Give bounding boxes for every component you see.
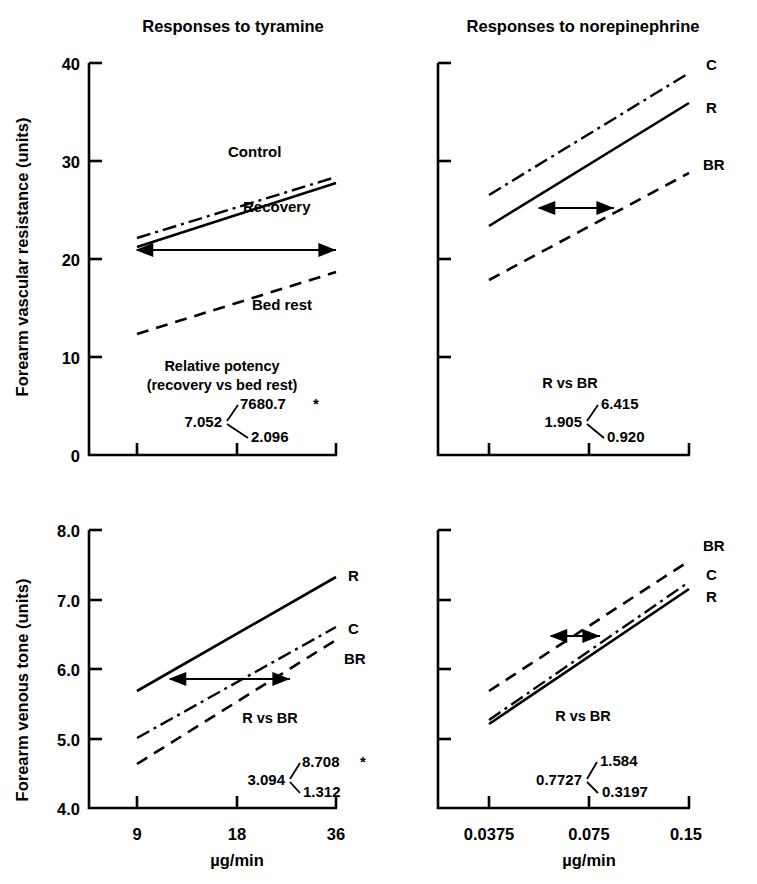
panel-bottom-right: 0.0375 0.075 0.15 µg/min BR C R R vs BR … <box>438 530 725 869</box>
potency-upper-bottom-right: 1.584 <box>600 752 638 769</box>
series-label-r-bottom-left: R <box>348 567 359 584</box>
potency-upper-top-left: 7680.7 <box>240 395 286 412</box>
y-ticks-top-right <box>438 63 451 357</box>
potency-lower-top-right: 0.920 <box>607 428 645 445</box>
x-ticks-top-left <box>137 443 336 455</box>
potency-lower-bottom-right: 0.3197 <box>602 783 648 800</box>
panel-top-right: C R BR R vs BR 1.905 6.415 0.920 <box>438 56 725 455</box>
x-ticklabel-00375-bottom-right: 0.0375 <box>464 825 514 843</box>
axis-lines-top-right <box>438 63 690 455</box>
series-line-br-bottom-left <box>137 640 336 764</box>
potency-note-line1-top-left: Relative potency <box>164 358 279 374</box>
series-line-br-bottom-right <box>489 561 689 691</box>
series-label-c-bottom-left: C <box>348 620 359 637</box>
x-ticklabel-36-bottom-left: 36 <box>327 825 345 843</box>
series-line-c-bottom-right <box>489 582 689 720</box>
series-label-c-bottom-right: C <box>706 566 717 583</box>
series-label-r-top-right: R <box>706 99 717 116</box>
potency-significance-star-top-left: * <box>313 395 319 412</box>
potency-lower-bottom-left: 1.312 <box>303 783 341 800</box>
y-ticks-top-left <box>89 63 102 357</box>
axis-lines-top-left <box>89 63 337 455</box>
series-label-recovery-top-left: Recovery <box>243 198 311 215</box>
series-line-c-top-right <box>489 73 689 195</box>
y-ticks-bottom-left <box>89 530 102 739</box>
series-label-c-top-right: C <box>706 56 717 73</box>
y-ticklabel-20-top-left: 20 <box>62 251 80 269</box>
panel-title-top-left: Responses to tyramine <box>142 17 324 35</box>
series-label-r-bottom-right: R <box>706 588 717 605</box>
potency-significance-star-bottom-left: * <box>360 753 366 770</box>
x-ticklabel-0075-bottom-right: 0.075 <box>568 825 609 843</box>
y-axis-title-top: Forearm vascular resistance (units) <box>13 118 31 397</box>
panel-title-top-right: Responses to norepinephrine <box>467 17 700 35</box>
x-ticks-top-right <box>489 443 689 455</box>
potency-estimate-bottom-left: 3.094 <box>247 771 285 788</box>
series-line-r-bottom-right <box>489 589 689 724</box>
series-line-br-top-right <box>489 173 689 280</box>
y-ticklabel-7-bottom-left: 7.0 <box>57 592 80 610</box>
series-line-recovery-top-left <box>137 183 336 247</box>
y-ticklabel-40-top-left: 40 <box>62 55 80 73</box>
potency-estimate-top-right: 1.905 <box>544 413 582 430</box>
y-ticklabel-4-bottom-left: 4.0 <box>57 800 80 818</box>
y-ticklabel-10-top-left: 10 <box>62 349 80 367</box>
y-ticklabel-0-top-left: 0 <box>71 447 80 465</box>
series-label-br-top-right: BR <box>703 156 725 173</box>
y-ticklabel-8-bottom-left: 8.0 <box>57 522 80 540</box>
figure-svg: Responses to tyramine Responses to norep… <box>0 0 757 884</box>
figure-root: Responses to tyramine Responses to norep… <box>0 0 757 884</box>
x-ticklabel-18-bottom-left: 18 <box>228 825 246 843</box>
potency-note-line2-top-left: (recovery vs bed rest) <box>147 377 298 393</box>
potency-estimate-top-left: 7.052 <box>184 413 222 430</box>
y-ticklabel-5-bottom-left: 5.0 <box>57 731 80 749</box>
series-line-r-bottom-left <box>137 577 336 691</box>
potency-note-top-right: R vs BR <box>542 375 598 391</box>
x-axis-title-bottom-left: µg/min <box>210 851 264 869</box>
potency-note-bottom-left: R vs BR <box>242 710 298 726</box>
potency-upper-bottom-left: 8.708 <box>302 753 340 770</box>
series-line-c-bottom-left <box>137 627 336 738</box>
x-ticklabel-015-bottom-right: 0.15 <box>670 825 702 843</box>
y-axis-title-bottom: Forearm venous tone (units) <box>13 579 31 802</box>
potency-upper-top-right: 6.415 <box>601 395 639 412</box>
series-label-br-bottom-left: BR <box>344 650 366 667</box>
potency-lower-top-left: 2.096 <box>251 428 289 445</box>
axis-lines-bottom-left <box>89 530 337 808</box>
potency-bracket-bottom-right <box>587 762 598 793</box>
potency-note-bottom-right: R vs BR <box>555 708 611 724</box>
panel-top-left: 40 30 20 10 0 Control Recovery Bed rest … <box>62 55 337 465</box>
series-label-br-bottom-right: BR <box>703 537 725 554</box>
x-axis-title-bottom-right: µg/min <box>562 851 616 869</box>
potency-estimate-bottom-right: 0.7727 <box>536 771 582 788</box>
y-ticklabel-30-top-left: 30 <box>62 153 80 171</box>
x-ticklabel-9-bottom-left: 9 <box>132 825 141 843</box>
panel-bottom-left: 8.0 7.0 6.0 5.0 4.0 9 18 36 µg/min R C B… <box>57 522 366 869</box>
y-ticklabel-6-bottom-left: 6.0 <box>57 661 80 679</box>
x-ticks-bottom-right <box>489 796 689 808</box>
potency-bracket-bottom-left <box>290 763 300 793</box>
series-label-control-top-left: Control <box>228 143 281 160</box>
series-label-bedrest-top-left: Bed rest <box>252 296 312 313</box>
y-ticks-bottom-right <box>438 530 451 739</box>
